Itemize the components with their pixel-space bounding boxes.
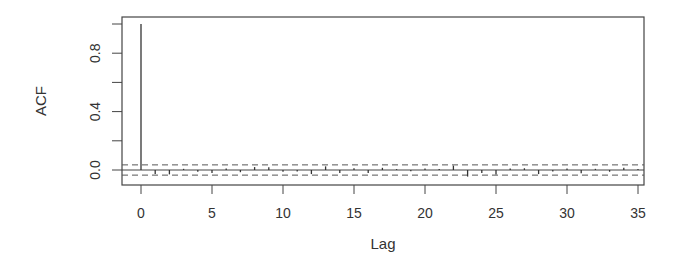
acf-chart: 0.00.40.8 05101520253035 Lag ACF bbox=[0, 0, 683, 268]
x-tick-label: 30 bbox=[559, 205, 575, 221]
x-tick-label: 25 bbox=[488, 205, 504, 221]
y-axis-label: ACF bbox=[32, 86, 49, 116]
x-axis-label: Lag bbox=[370, 235, 395, 252]
y-tick-label: 0.8 bbox=[87, 43, 103, 63]
x-tick-label: 35 bbox=[630, 205, 646, 221]
x-tick-label: 10 bbox=[275, 205, 291, 221]
y-axis: 0.00.40.8 bbox=[87, 24, 122, 180]
plot-area bbox=[122, 17, 644, 185]
y-tick-label: 0.4 bbox=[87, 102, 103, 122]
acf-stems bbox=[141, 24, 638, 177]
y-tick-label: 0.0 bbox=[87, 160, 103, 180]
x-tick-label: 20 bbox=[417, 205, 433, 221]
x-tick-label: 0 bbox=[137, 205, 145, 221]
x-tick-label: 5 bbox=[208, 205, 216, 221]
x-axis: 05101520253035 bbox=[137, 185, 646, 221]
x-tick-label: 15 bbox=[346, 205, 362, 221]
